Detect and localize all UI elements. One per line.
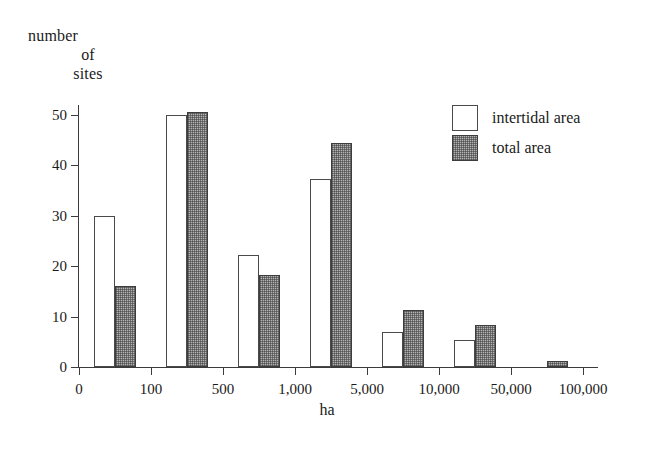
x-tick-4 [367,367,368,375]
x-tick-6 [511,367,512,375]
legend-swatch-icon-intertidal [452,105,478,131]
bar-total-6 [547,361,568,367]
bar-total-0 [115,286,136,367]
chart-legend: intertidal area total area [452,103,642,163]
x-tick-label-4: 5,000 [350,381,384,398]
bar-total-3 [331,143,352,367]
x-axis-title: ha [0,401,654,419]
bar-intertidal-0 [94,216,115,367]
bar-total-2 [259,275,280,367]
bar-total-1 [187,112,208,367]
y-tick-0 [71,367,78,368]
y-tick-label-10: 10 [27,308,67,325]
y-tick-50 [71,115,78,116]
bar-total-4 [403,310,424,367]
x-tick-label-1: 100 [140,381,163,398]
legend-item-intertidal-area: intertidal area [452,103,642,133]
legend-label-intertidal: intertidal area [492,109,580,127]
bar-total-5 [475,325,496,367]
x-tick-2 [223,367,224,375]
y-tick-10 [71,317,78,318]
x-tick-5 [439,367,440,375]
y-tick-label-50: 50 [27,107,67,124]
bar-intertidal-5 [454,340,475,367]
x-tick-label-0: 0 [75,381,83,398]
legend-swatch-icon-total [452,135,478,161]
y-axis-line [78,105,79,367]
y-tick-40 [71,165,78,166]
x-tick-label-5: 10,000 [418,381,459,398]
y-axis-title-line-2: of [28,45,148,64]
x-tick-7 [583,367,584,375]
bar-intertidal-2 [238,255,259,367]
legend-item-total-area: total area [452,133,642,163]
x-tick-3 [295,367,296,375]
x-tick-label-2: 500 [212,381,235,398]
x-tick-label-7: 100,000 [559,381,608,398]
legend-label-total: total area [492,139,551,157]
y-axis-title-line-1: number [28,26,148,45]
x-tick-1 [151,367,152,375]
bar-intertidal-4 [382,332,403,367]
x-tick-label-6: 50,000 [491,381,532,398]
y-tick-label-30: 30 [27,207,67,224]
y-tick-label-40: 40 [27,157,67,174]
y-axis-title-line-3: sites [28,64,148,83]
y-tick-30 [71,216,78,217]
x-axis-line [78,367,598,368]
x-tick-label-3: 1,000 [278,381,312,398]
y-tick-label-0: 0 [27,359,67,376]
y-tick-20 [71,266,78,267]
x-tick-0 [79,367,80,375]
y-tick-label-20: 20 [27,258,67,275]
bar-intertidal-3 [310,179,331,367]
chart-page: number of sites 01020304050 01005001,000… [0,0,654,450]
bar-intertidal-1 [166,115,187,367]
y-axis-title: number of sites [28,26,148,83]
